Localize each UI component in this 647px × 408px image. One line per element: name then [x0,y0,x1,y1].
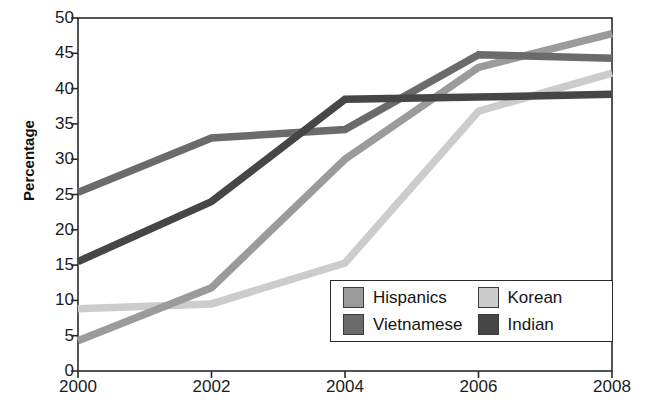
legend-swatch-hispanics [343,287,364,308]
legend-swatch-korean [478,287,499,308]
series-line-korean [78,73,612,309]
chart-legend: Hispanics Korean Vietnamese Indian [330,280,613,342]
legend-item-hispanics: Hispanics [337,287,472,308]
plot-area [0,0,647,408]
legend-label-hispanics: Hispanics [373,289,447,306]
legend-item-indian: Indian [472,314,607,335]
series-line-indian [78,94,612,261]
legend-item-vietnamese: Vietnamese [337,314,472,335]
legend-swatch-indian [478,314,499,335]
legend-swatch-vietnamese [343,314,364,335]
legend-label-vietnamese: Vietnamese [373,316,462,333]
legend-label-korean: Korean [508,289,563,306]
legend-item-korean: Korean [472,287,607,308]
line-chart: Percentage 05101520253035404550 20002002… [0,0,647,408]
legend-label-indian: Indian [508,316,554,333]
series-line-vietnamese [78,55,612,193]
